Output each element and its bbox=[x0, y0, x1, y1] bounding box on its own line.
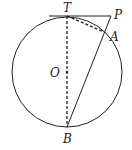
chord-ta bbox=[67, 16, 104, 32]
label-p: P bbox=[113, 8, 123, 22]
secant-line-pb bbox=[67, 16, 111, 127]
label-b: B bbox=[62, 132, 72, 146]
geometry-diagram: T P A O B bbox=[0, 0, 132, 150]
label-a: A bbox=[109, 30, 119, 44]
label-o: O bbox=[50, 66, 60, 80]
center-point-o bbox=[66, 71, 69, 74]
label-t: T bbox=[63, 1, 72, 15]
